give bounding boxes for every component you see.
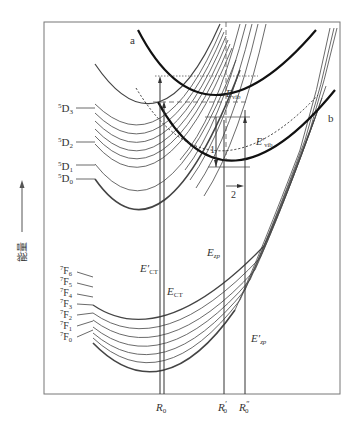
label-e-vib-prime: E′vib	[255, 136, 273, 148]
x-tick-R0-prime: R′0	[217, 400, 227, 415]
transition-marker-2: 2	[231, 189, 236, 200]
y-axis-label: 能量	[16, 242, 28, 262]
ground-level-labels: 7F6 7F5 7F4 7F3 7F2 7F1 7F0	[60, 264, 93, 343]
x-tick-R0: R0	[155, 401, 167, 415]
ct-curve-a	[138, 30, 316, 95]
label-e-ct: ECT	[166, 285, 183, 299]
ct-curve-b	[158, 90, 335, 161]
ground-state-7F-curves	[93, 246, 264, 372]
level-label-7F0: 7F0	[60, 330, 93, 343]
y-axis-label-group: 能量	[16, 180, 28, 262]
excited-level-labels: 5D3 5D2 5D1 5D0	[58, 102, 95, 186]
level-label-5D3: 5D3	[58, 102, 95, 116]
level-label-5D0: 5D0	[58, 172, 95, 186]
arrow-down-icon	[214, 160, 218, 167]
label-e-zp: Ezp	[206, 246, 220, 260]
x-axis-labels: R0 R′0 R″0	[155, 400, 250, 415]
label-e-zp-prime: E′zp	[250, 332, 267, 346]
x-tick-R0-double-prime: R″0	[238, 400, 250, 415]
ct-curve-a-label: a	[130, 34, 135, 46]
ct-curve-b-label: b	[328, 112, 334, 124]
arrow-head-icon	[20, 180, 25, 188]
level-label-5D2: 5D2	[58, 136, 95, 150]
label-e-ct-prime: E′CT	[139, 262, 159, 276]
svg-text:5D2: 5D2	[58, 136, 73, 150]
arrow-up-icon	[158, 76, 162, 83]
svg-text:5D3: 5D3	[58, 102, 73, 116]
transition-marker-1: 1	[210, 144, 215, 155]
svg-text:5D0: 5D0	[58, 172, 73, 186]
plot-frame	[44, 22, 340, 394]
configurational-coordinate-diagram: 能量	[0, 0, 358, 428]
